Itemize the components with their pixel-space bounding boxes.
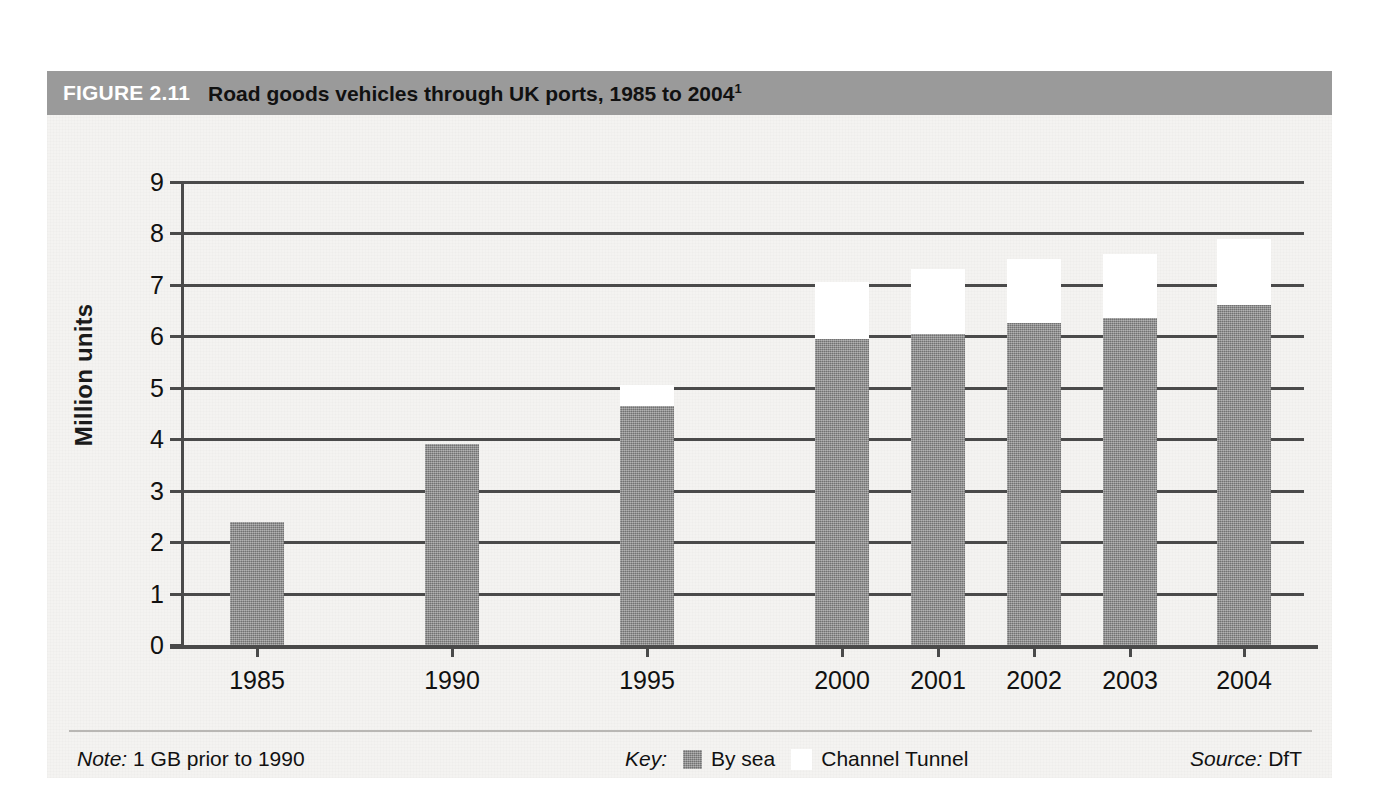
figure-title-footnote-marker: 1 [734, 81, 741, 96]
y-axis-line [181, 182, 184, 648]
legend-swatch-channel-tunnel [791, 749, 812, 770]
bar-segment-1990-by-sea[interactable] [425, 444, 479, 645]
bar-group-2003[interactable] [1103, 182, 1157, 645]
source-text: DfT [1268, 747, 1302, 770]
y-tick-label-1: 1 [150, 579, 164, 608]
x-tick-mark-1990 [451, 645, 454, 657]
x-tick-label-2000: 2000 [814, 666, 870, 695]
y-tick-mark-1 [170, 593, 184, 596]
bar-segment-1995-by-sea[interactable] [620, 406, 674, 645]
figure-title-text: Road goods vehicles through UK ports, 19… [208, 82, 734, 105]
legend-label-by-sea: By sea [711, 747, 775, 771]
figure-header-band: FIGURE 2.11 Road goods vehicles through … [47, 71, 1332, 115]
bar-segment-2002-channel-tunnel[interactable] [1007, 259, 1061, 323]
y-tick-label-5: 5 [150, 373, 164, 402]
x-tick-mark-2000 [841, 645, 844, 657]
y-tick-mark-8 [170, 232, 184, 235]
y-tick-mark-7 [170, 284, 184, 287]
bar-segment-2002-by-sea[interactable] [1007, 323, 1061, 645]
x-tick-label-2002: 2002 [1006, 666, 1062, 695]
legend-label-channel-tunnel: Channel Tunnel [821, 747, 968, 771]
bar-segment-1985-by-sea[interactable] [230, 522, 284, 645]
note-label: Note: [77, 747, 127, 770]
bar-segment-2003-by-sea[interactable] [1103, 318, 1157, 645]
bar-group-2000[interactable] [815, 182, 869, 645]
y-tick-label-2: 2 [150, 528, 164, 557]
x-axis-line [170, 645, 1318, 649]
bar-segment-2000-by-sea[interactable] [815, 339, 869, 645]
bar-group-1985[interactable] [230, 182, 284, 645]
legend-label: Key: [625, 747, 667, 771]
bar-group-1995[interactable] [620, 182, 674, 645]
x-tick-mark-2003 [1129, 645, 1132, 657]
page-title: Road goods vehicles through UK ports, 19… [208, 81, 742, 106]
bar-segment-2000-channel-tunnel[interactable] [815, 282, 869, 339]
legend-swatch-by-sea [683, 750, 702, 769]
y-tick-label-7: 7 [150, 270, 164, 299]
y-axis-title: Million units [70, 280, 98, 470]
y-tick-mark-6 [170, 335, 184, 338]
chart-legend: Key: By sea Channel Tunnel [625, 747, 968, 771]
source-label: Source: [1190, 747, 1262, 770]
x-tick-label-2004: 2004 [1216, 666, 1272, 695]
y-tick-label-3: 3 [150, 476, 164, 505]
x-tick-mark-1985 [256, 645, 259, 657]
x-tick-label-1995: 1995 [619, 666, 675, 695]
x-tick-mark-2001 [937, 645, 940, 657]
figure-note: Note: 1 GB prior to 1990 [77, 747, 305, 771]
note-text: 1 GB prior to 1990 [133, 747, 305, 770]
chart-region: Million units 0123456789 198519901995200… [47, 115, 1332, 730]
bar-segment-2004-channel-tunnel[interactable] [1217, 239, 1271, 306]
y-tick-label-9: 9 [150, 168, 164, 197]
y-tick-label-0: 0 [150, 631, 164, 660]
y-tick-label-4: 4 [150, 425, 164, 454]
y-tick-mark-3 [170, 490, 184, 493]
x-tick-label-2003: 2003 [1102, 666, 1158, 695]
plot-area: 0123456789 19851990199520002001200220032… [184, 182, 1304, 645]
y-tick-mark-2 [170, 541, 184, 544]
y-tick-label-6: 6 [150, 322, 164, 351]
figure-number-label: FIGURE 2.11 [63, 81, 190, 105]
bar-segment-2003-channel-tunnel[interactable] [1103, 254, 1157, 318]
x-tick-label-2001: 2001 [910, 666, 966, 695]
x-tick-label-1985: 1985 [229, 666, 285, 695]
bar-segment-2004-by-sea[interactable] [1217, 305, 1271, 645]
y-tick-mark-9 [170, 181, 184, 184]
bar-segment-2001-channel-tunnel[interactable] [911, 269, 965, 333]
y-tick-mark-0 [170, 644, 184, 647]
x-tick-mark-1995 [646, 645, 649, 657]
x-tick-label-1990: 1990 [424, 666, 480, 695]
bar-group-2002[interactable] [1007, 182, 1061, 645]
bar-segment-1995-channel-tunnel[interactable] [620, 385, 674, 406]
x-tick-mark-2004 [1243, 645, 1246, 657]
x-tick-mark-2002 [1033, 645, 1036, 657]
bar-group-2001[interactable] [911, 182, 965, 645]
bar-segment-2001-by-sea[interactable] [911, 334, 965, 645]
y-tick-label-8: 8 [150, 219, 164, 248]
y-tick-mark-4 [170, 438, 184, 441]
bar-group-1990[interactable] [425, 182, 479, 645]
figure-source: Source: DfT [1190, 747, 1302, 771]
figure-container: FIGURE 2.11 Road goods vehicles through … [47, 71, 1332, 778]
footer-divider [69, 730, 1312, 732]
figure-footer: Note: 1 GB prior to 1990 Key: By sea Cha… [47, 730, 1332, 778]
bar-group-2004[interactable] [1217, 182, 1271, 645]
y-tick-mark-5 [170, 387, 184, 390]
